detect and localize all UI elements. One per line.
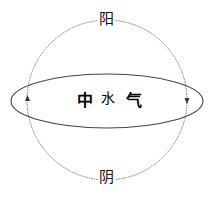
yin-label: 阴 xyxy=(98,170,115,185)
center-char-zhong: 中 xyxy=(77,93,93,109)
center-char-qi: 气 xyxy=(126,93,142,109)
yang-label: 阳 xyxy=(98,12,115,27)
center-char-shui: 水 xyxy=(101,91,115,105)
up-arrow-icon xyxy=(25,95,30,101)
down-arrow-icon xyxy=(185,98,190,104)
